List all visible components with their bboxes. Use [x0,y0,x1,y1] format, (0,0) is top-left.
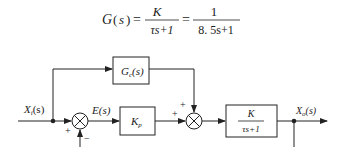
plant-denominator: τs+1 [242,124,259,134]
feedforward-output-path [149,69,194,112]
sum2-left-plus-sign: + [172,108,178,119]
plant-numerator: K [247,108,256,119]
error-label: E(s) [91,104,111,117]
output-label: Xo(s) [295,105,317,118]
output-branch-point [292,119,297,124]
block-diagram: Xi(s) E(s) Gc(s) Kp K τs+1 Xo(s) + − + + [0,0,337,147]
sum1-minus-sign: − [84,133,90,144]
sum1-plus-sign: + [65,125,71,136]
input-label: Xi(s) [23,103,45,117]
feedforward-block-label: Gc(s) [121,65,144,79]
controller-block-label: Kp [130,115,142,129]
input-branch-point [51,119,56,124]
sum2-top-plus-sign: + [180,99,186,110]
